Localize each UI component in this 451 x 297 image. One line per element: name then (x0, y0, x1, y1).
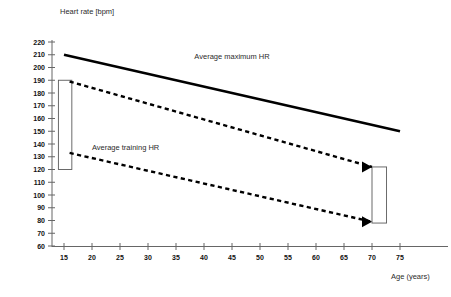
training-zone-young (58, 80, 71, 169)
y-tick-label: 210 (33, 51, 45, 58)
y-axis-title: Heart rate [bpm] (60, 7, 114, 16)
y-tick-label: 220 (33, 39, 45, 46)
x-tick-label: 75 (396, 254, 404, 261)
chart-canvas: Heart rate [bpm] Age (years) 60708090100… (0, 0, 451, 297)
x-axis: 15202530354045505560657075 (52, 243, 448, 261)
series-average-training-hr-upper-bound (70, 82, 372, 167)
y-tick-label: 160 (33, 115, 45, 122)
y-tick-label: 190 (33, 77, 45, 84)
heart-rate-chart: Heart rate [bpm] Age (years) 60708090100… (0, 0, 451, 297)
arrow-upper-training-bound (362, 161, 372, 172)
x-tick-label: 55 (284, 254, 292, 261)
y-tick-label: 130 (33, 153, 45, 160)
arrow-lower-training-bound (362, 216, 372, 227)
data-series (64, 55, 400, 222)
x-tick-label: 25 (116, 254, 124, 261)
y-tick-label: 60 (37, 243, 45, 250)
x-tick-label: 45 (228, 254, 236, 261)
x-axis-title: Age (years) (391, 272, 430, 281)
x-tick-label: 65 (340, 254, 348, 261)
series-average-training-hr-lower-bound (70, 153, 372, 222)
y-tick-label: 170 (33, 102, 45, 109)
x-axis-ticks: 15202530354045505560657075 (60, 243, 404, 261)
x-tick-label: 20 (88, 254, 96, 261)
y-tick-label: 120 (33, 166, 45, 173)
y-tick-label: 100 (33, 192, 45, 199)
annotation-average-maximum-hr: Average maximum HR (194, 52, 270, 61)
y-tick-label: 80 (37, 217, 45, 224)
y-tick-label: 200 (33, 64, 45, 71)
y-tick-label: 180 (33, 90, 45, 97)
y-tick-label: 90 (37, 204, 45, 211)
y-tick-label: 110 (34, 179, 45, 186)
x-tick-label: 30 (144, 254, 152, 261)
y-tick-label: 150 (33, 128, 45, 135)
x-tick-label: 35 (172, 254, 180, 261)
x-tick-label: 60 (312, 254, 320, 261)
x-tick-label: 50 (256, 254, 264, 261)
arrow-markers (362, 161, 372, 227)
training-zone-old (372, 167, 387, 223)
x-tick-label: 70 (368, 254, 376, 261)
x-tick-label: 15 (60, 254, 68, 261)
y-axis: 6070809010011012013014015016017018019020… (33, 39, 55, 250)
x-tick-label: 40 (200, 254, 208, 261)
annotation-average-training-hr: Average training HR (92, 143, 160, 152)
y-tick-label: 140 (33, 141, 45, 148)
y-tick-label: 70 (37, 230, 45, 237)
